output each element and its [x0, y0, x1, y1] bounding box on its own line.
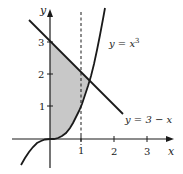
x-axis-label: x [168, 145, 175, 158]
line-label: y = 3 − x [124, 114, 172, 125]
y-tick-label-2: 2 [38, 69, 44, 80]
figure: y x 1 2 3 1 2 3 y = x3 y = 3 − x [0, 0, 183, 174]
shaded-region [50, 42, 90, 139]
x-axis-arrow-icon [166, 136, 174, 142]
y-axis-arrow-icon [47, 9, 53, 17]
y-axis-label: y [39, 4, 47, 17]
y-tick-label-1: 1 [39, 101, 45, 112]
x-tick-label-3: 3 [144, 146, 150, 157]
y-tick-label-3: 3 [38, 37, 44, 48]
x-tick-label-2: 2 [111, 146, 117, 157]
cubic-label: y = x3 [108, 37, 140, 49]
x-tick-label-1: 1 [78, 145, 84, 156]
